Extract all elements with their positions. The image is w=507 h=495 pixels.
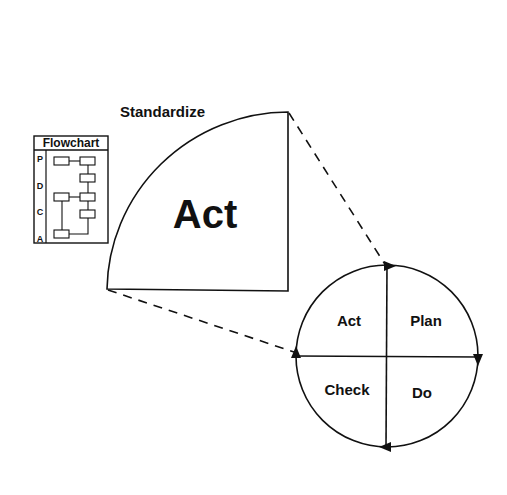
flowchart-row-c: C — [37, 207, 44, 217]
flowchart-box: Flowchart P D C A — [34, 136, 108, 244]
act-sector-label: Act — [173, 192, 237, 236]
flowchart-row-a: A — [37, 234, 44, 244]
flowchart-row-d: D — [37, 181, 44, 191]
quadrant-do: Do — [412, 384, 432, 401]
quadrant-check: Check — [324, 381, 370, 398]
flowchart-title: Flowchart — [43, 136, 100, 150]
connector-top-dashed — [289, 113, 386, 266]
quadrant-plan: Plan — [410, 312, 442, 329]
quadrant-act: Act — [337, 312, 361, 329]
pdca-diagram: Standardize Act Flowchart P D C A — [0, 0, 507, 495]
flowchart-row-p: P — [37, 154, 43, 164]
connector-bottom-dashed — [108, 290, 294, 352]
standardize-caption: Standardize — [120, 103, 205, 120]
pdca-cycle: Act Plan Check Do — [291, 261, 483, 452]
